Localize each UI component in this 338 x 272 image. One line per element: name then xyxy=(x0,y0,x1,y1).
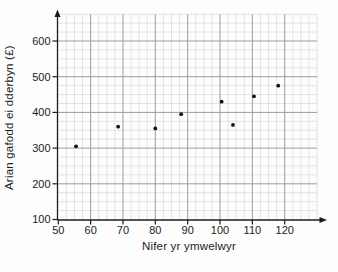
data-point xyxy=(231,123,235,127)
y-axis-arrow-icon xyxy=(55,10,61,18)
x-tick-label: 90 xyxy=(182,224,194,236)
grid-major-lines xyxy=(58,14,318,220)
x-tick-label: 50 xyxy=(52,224,64,236)
x-tick-label: 60 xyxy=(85,224,97,236)
x-tick-label: 100 xyxy=(211,224,229,236)
axes xyxy=(55,10,328,224)
y-tick-label: 100 xyxy=(32,213,50,225)
data-points xyxy=(74,84,280,148)
data-point xyxy=(179,112,183,116)
x-tick-labels: 5060708090100110120 xyxy=(52,224,294,236)
x-axis-title: Nifer yr ymwelwyr xyxy=(58,240,320,252)
y-tick-label: 400 xyxy=(32,106,50,118)
x-tick-label: 70 xyxy=(117,224,129,236)
data-point xyxy=(276,84,280,88)
x-tick-label: 110 xyxy=(244,224,262,236)
x-tick-label: 120 xyxy=(276,224,294,236)
scatter-chart: 5060708090100110120100200300400500600 Ar… xyxy=(0,0,338,272)
data-point xyxy=(74,144,78,148)
data-point xyxy=(116,125,120,129)
data-point xyxy=(252,94,256,98)
data-point xyxy=(153,127,157,131)
y-tick-label: 600 xyxy=(32,35,50,47)
x-tick-label: 80 xyxy=(149,224,161,236)
y-tick-label: 500 xyxy=(32,71,50,83)
y-tick-label: 300 xyxy=(32,142,50,154)
y-tick-label: 200 xyxy=(32,178,50,190)
x-axis-arrow-icon xyxy=(320,217,328,223)
y-tick-labels: 100200300400500600 xyxy=(32,35,50,226)
data-point xyxy=(220,100,224,104)
plot-area: 5060708090100110120100200300400500600 xyxy=(0,0,338,272)
tick-marks xyxy=(53,41,285,225)
y-axis-title: Arian gafodd ei dderbyn (£) xyxy=(3,14,15,222)
